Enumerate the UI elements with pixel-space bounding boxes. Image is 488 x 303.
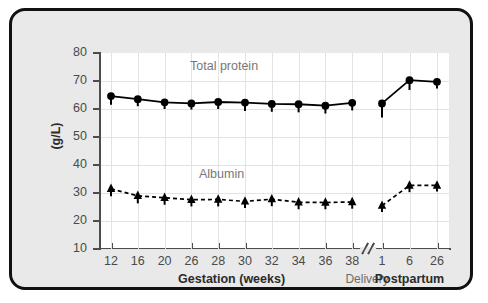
gridline-vertical	[437, 53, 438, 249]
y-tick-label: 60	[51, 102, 87, 114]
gridline-vertical	[382, 53, 383, 249]
y-tick-label: 40	[51, 158, 87, 170]
gridline-vertical	[191, 53, 192, 249]
x-tick-label: 26	[417, 254, 457, 268]
gridline-horizontal	[101, 165, 449, 166]
y-tick-mark	[93, 248, 100, 250]
x-axis-group-label-postpartum: Postpartum	[362, 272, 458, 286]
gridline-vertical	[272, 53, 273, 249]
y-tick-label: 10	[51, 242, 87, 254]
y-tick-mark	[93, 220, 100, 222]
series-label-albumin: Albumin	[199, 167, 244, 181]
y-tick-mark	[93, 192, 100, 194]
gridline-horizontal	[101, 221, 449, 222]
gridline-vertical	[218, 53, 219, 249]
y-tick-label: 20	[51, 214, 87, 226]
gridline-horizontal	[101, 137, 449, 138]
y-tick-label: 70	[51, 74, 87, 86]
y-tick-mark	[93, 136, 100, 138]
gridline-horizontal	[101, 193, 449, 194]
gridline-vertical	[325, 53, 326, 249]
gridline-horizontal	[101, 109, 449, 110]
gridline-vertical	[299, 53, 300, 249]
y-tick-mark	[93, 80, 100, 82]
gridline-vertical	[165, 53, 166, 249]
gridline-vertical	[245, 53, 246, 249]
y-tick-mark	[93, 164, 100, 166]
gridline-vertical	[352, 53, 353, 249]
gridline-vertical	[138, 53, 139, 249]
gridline-vertical	[410, 53, 411, 249]
y-tick-label: 80	[51, 46, 87, 58]
gridline-vertical	[111, 53, 112, 249]
y-tick-mark	[93, 108, 100, 110]
gridline-horizontal	[101, 249, 449, 250]
y-tick-mark	[93, 52, 100, 54]
plot-area	[101, 53, 449, 249]
series-label-total-protein: Total protein	[190, 59, 258, 73]
gridline-horizontal	[101, 81, 449, 82]
y-tick-label: 30	[51, 186, 87, 198]
y-tick-label: 50	[51, 130, 87, 142]
figure-frame: (g/L) 8070605040302010 12162026283032343…	[9, 8, 473, 290]
x-axis-group-label-gestation: Gestation (weeks)	[172, 272, 292, 286]
